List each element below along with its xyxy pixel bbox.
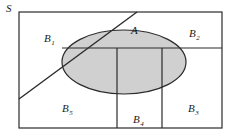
- label-region-b4-base: B: [133, 113, 140, 125]
- label-region-b5-subscript: 5: [69, 109, 73, 117]
- label-region-b4: B4: [133, 110, 143, 126]
- label-region-b3-subscript: 3: [195, 109, 199, 117]
- label-region-b2: B2: [189, 24, 199, 40]
- venn-diagram-figure: S A B1 B2 B5 B4 B3: [0, 0, 233, 139]
- label-region-b5-base: B: [62, 102, 69, 114]
- label-event-a: A: [131, 21, 138, 37]
- label-sample-space: S: [6, 3, 12, 14]
- diagram-canvas: [0, 0, 233, 139]
- label-region-b1: B1: [44, 29, 54, 45]
- label-region-b1-base: B: [44, 32, 51, 44]
- label-region-b2-subscript: 2: [196, 34, 200, 42]
- label-event-a-text: A: [131, 24, 138, 36]
- label-region-b3: B3: [188, 99, 198, 115]
- label-region-b1-subscript: 1: [51, 39, 55, 47]
- label-region-b4-subscript: 4: [140, 120, 144, 128]
- event-a-ellipse: [62, 30, 186, 94]
- label-region-b5: B5: [62, 99, 72, 115]
- label-region-b2-base: B: [189, 27, 196, 39]
- label-sample-space-text: S: [6, 2, 12, 14]
- label-region-b3-base: B: [188, 102, 195, 114]
